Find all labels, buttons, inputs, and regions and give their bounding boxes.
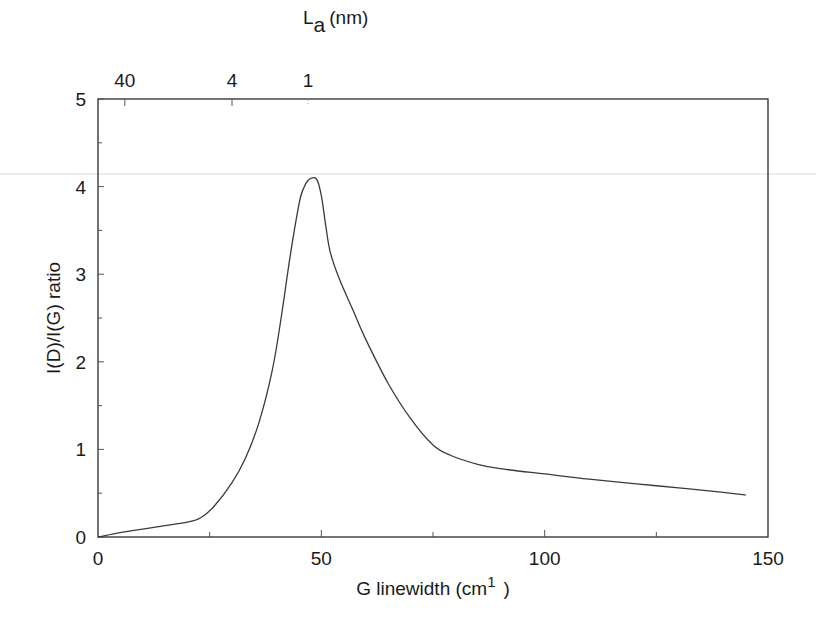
x-axis: 050100150 xyxy=(93,530,784,569)
chart: 012345 050100150 4041 G linewidth (cm1) … xyxy=(0,0,816,631)
y-tick-label: 3 xyxy=(75,264,86,285)
y-axis-label: I(D)/I(G) ratio xyxy=(43,262,64,374)
y-tick-label: 4 xyxy=(75,177,86,198)
y-tick-label: 5 xyxy=(75,89,86,110)
y-tick-label: 2 xyxy=(75,352,86,373)
data-line xyxy=(98,178,746,537)
x-axis-label: G linewidth (cm1) xyxy=(356,573,510,599)
y-tick-label: 0 xyxy=(75,527,86,548)
x-tick-label: 100 xyxy=(529,548,561,569)
x-tick-label: 150 xyxy=(752,548,784,569)
x-tick-label: 50 xyxy=(311,548,332,569)
y-tick-label: 1 xyxy=(75,439,86,460)
top-tick-label: 1 xyxy=(303,70,314,91)
plot-frame xyxy=(98,99,768,537)
y-axis: 012345 xyxy=(75,89,104,548)
top-tick-label: 4 xyxy=(227,70,238,91)
top-tick-label: 40 xyxy=(114,70,135,91)
top-axis: 4041 xyxy=(114,70,313,106)
top-axis-label: La(nm) xyxy=(303,7,368,36)
x-tick-label: 0 xyxy=(93,548,104,569)
